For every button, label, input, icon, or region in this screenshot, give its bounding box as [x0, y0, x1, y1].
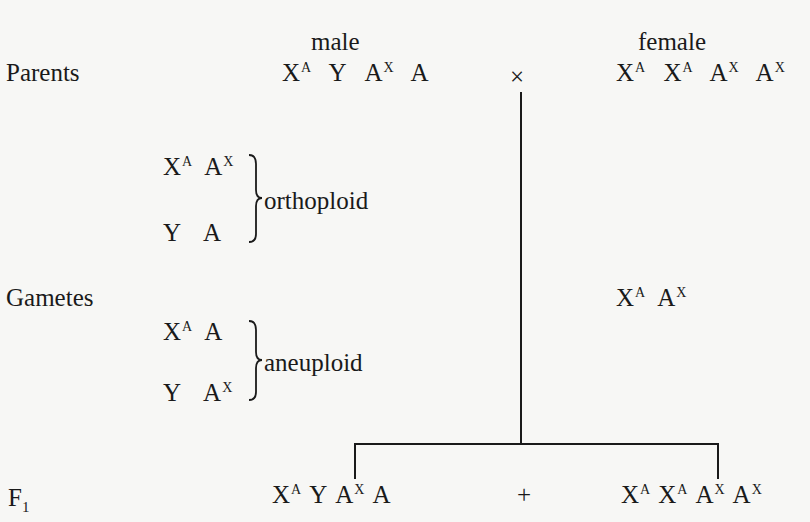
orthoploid-gamete-2: YA — [163, 220, 221, 245]
aneuploid-brace — [248, 318, 264, 402]
chromosome: XA — [282, 59, 311, 86]
orthoploid-gamete-1: XAAX — [163, 154, 233, 179]
orthoploid-label: orthoploid — [264, 188, 368, 213]
male-header: male — [311, 29, 360, 54]
offspring-bracket-bar — [354, 443, 719, 445]
gametes-label: Gametes — [6, 285, 93, 310]
female-header: female — [638, 29, 706, 54]
chromosome: Y — [329, 59, 348, 86]
male-parent-genotype: XA Y AX A — [282, 60, 430, 85]
aneuploid-gamete-1: XAA — [163, 319, 222, 344]
female-gamete: XAAX — [616, 285, 686, 310]
offspring-drop-female — [717, 443, 719, 479]
chromosome: A — [411, 59, 430, 86]
orthoploid-brace — [248, 152, 264, 244]
chromosome: AX — [710, 59, 739, 86]
female-parent-genotype: XA XA AX AX — [616, 60, 785, 85]
parents-label: Parents — [6, 60, 80, 85]
plus-symbol: + — [517, 482, 531, 507]
chromosome: AX — [364, 59, 393, 86]
f1-female-genotype: XAXAAXAX — [621, 482, 762, 507]
chromosome: XA — [663, 59, 692, 86]
chromosome: XA — [616, 59, 645, 86]
aneuploid-label: aneuploid — [264, 350, 363, 375]
offspring-drop-male — [354, 443, 356, 479]
cross-stem-line — [520, 92, 522, 444]
f1-male-genotype: XAYAXA — [272, 482, 391, 507]
chromosome: AX — [756, 59, 785, 86]
aneuploid-gamete-2: YAX — [163, 380, 232, 405]
cross-symbol: × — [510, 64, 524, 89]
f1-label: F1 — [8, 485, 29, 510]
